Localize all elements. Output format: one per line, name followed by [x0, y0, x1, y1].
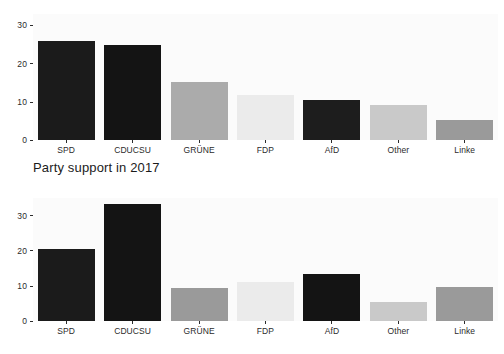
- y-tick-label: 10: [17, 281, 33, 291]
- bar-other: [370, 105, 427, 140]
- x-tick-spd: SPD: [33, 321, 99, 336]
- bar-series-top: [33, 14, 498, 140]
- x-tick-label: GRÜNE: [166, 145, 232, 155]
- x-tick-mark: [199, 321, 200, 324]
- x-tick-grüne: GRÜNE: [166, 321, 232, 336]
- bar-fdp: [237, 95, 294, 140]
- x-axis-top: SPDCDUCSUGRÜNEFDPAfDOtherLinke: [33, 140, 498, 162]
- x-tick-mark: [199, 140, 200, 143]
- x-tick-mark: [331, 140, 332, 143]
- y-tick-label: 30: [17, 211, 33, 221]
- x-axis-bottom: SPDCDUCSUGRÜNEFDPAfDOtherLinke: [33, 321, 498, 343]
- x-tick-label: CDUCSU: [99, 326, 165, 336]
- x-tick-mark: [66, 321, 67, 324]
- x-tick-cducsu: CDUCSU: [99, 321, 165, 336]
- x-tick-fdp: FDP: [232, 140, 298, 155]
- x-tick-afd: AfD: [299, 321, 365, 336]
- plot-area-top: [33, 14, 498, 140]
- x-tick-label: GRÜNE: [166, 326, 232, 336]
- x-tick-other: Other: [365, 140, 431, 155]
- x-tick-mark: [66, 140, 67, 143]
- x-tick-label: SPD: [33, 326, 99, 336]
- y-tick-label: 20: [17, 246, 33, 256]
- bar-afd: [303, 100, 360, 140]
- y-tick-label: 10: [17, 97, 33, 107]
- bar-cducsu: [104, 45, 161, 140]
- bar-linke: [436, 287, 493, 321]
- x-tick-fdp: FDP: [232, 321, 298, 336]
- bar-spd: [38, 249, 95, 321]
- x-tick-linke: Linke: [432, 321, 498, 336]
- bar-fdp: [237, 282, 294, 321]
- x-tick-mark: [464, 140, 465, 143]
- page-title: Party support in 2017: [33, 160, 160, 175]
- x-tick-label: AfD: [299, 145, 365, 155]
- bar-linke: [436, 120, 493, 140]
- y-axis-bottom: 0102030: [0, 186, 33, 354]
- x-tick-spd: SPD: [33, 140, 99, 155]
- bar-series-bottom: [33, 198, 498, 321]
- x-tick-mark: [398, 321, 399, 324]
- x-tick-mark: [265, 321, 266, 324]
- x-tick-mark: [464, 321, 465, 324]
- bar-cducsu: [104, 204, 161, 321]
- plot-area-bottom: [33, 198, 498, 321]
- x-tick-mark: [265, 140, 266, 143]
- bar-grüne: [171, 288, 228, 321]
- y-tick-label: 0: [22, 316, 33, 326]
- bar-other: [370, 302, 427, 321]
- x-tick-grüne: GRÜNE: [166, 140, 232, 155]
- x-tick-label: Other: [365, 145, 431, 155]
- x-tick-label: AfD: [299, 326, 365, 336]
- x-tick-label: Linke: [432, 145, 498, 155]
- y-axis-top: 0102030: [0, 0, 33, 160]
- x-tick-label: CDUCSU: [99, 145, 165, 155]
- x-tick-label: Linke: [432, 326, 498, 336]
- x-tick-label: Other: [365, 326, 431, 336]
- chart-panel-bottom: 0102030 SPDCDUCSUGRÜNEFDPAfDOtherLinke: [0, 186, 504, 354]
- chart-panel-top: 0102030 SPDCDUCSUGRÜNEFDPAfDOtherLinke: [0, 0, 504, 160]
- y-tick-label: 20: [17, 59, 33, 69]
- x-tick-mark: [398, 140, 399, 143]
- x-tick-other: Other: [365, 321, 431, 336]
- x-tick-mark: [132, 321, 133, 324]
- x-tick-label: FDP: [232, 145, 298, 155]
- figure-canvas: 0102030 SPDCDUCSUGRÜNEFDPAfDOtherLinke P…: [0, 0, 504, 354]
- x-tick-linke: Linke: [432, 140, 498, 155]
- bar-spd: [38, 41, 95, 140]
- x-tick-mark: [331, 321, 332, 324]
- bar-afd: [303, 274, 360, 321]
- x-tick-mark: [132, 140, 133, 143]
- x-tick-label: SPD: [33, 145, 99, 155]
- y-tick-label: 0: [22, 135, 33, 145]
- bar-grüne: [171, 82, 228, 140]
- x-tick-afd: AfD: [299, 140, 365, 155]
- y-tick-label: 30: [17, 20, 33, 30]
- x-tick-label: FDP: [232, 326, 298, 336]
- x-tick-cducsu: CDUCSU: [99, 140, 165, 155]
